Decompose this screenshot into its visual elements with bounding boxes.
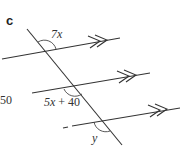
parallel-lines-diagram: c 7x 5x + 40 y 50: [0, 0, 184, 160]
angle-arc-7x: [38, 40, 56, 49]
angle-label-7x: 7x: [51, 27, 63, 41]
parallel-arrow-icon-3: [148, 104, 167, 117]
parallel-line-2: [32, 73, 150, 93]
angle-label-y: y: [91, 131, 98, 145]
part-label: c: [6, 13, 13, 28]
dash-mark: [63, 127, 68, 128]
angle-label-5x40: 5x + 40: [44, 95, 80, 109]
parallel-line-1: [2, 38, 120, 59]
side-number: 50: [0, 93, 12, 107]
